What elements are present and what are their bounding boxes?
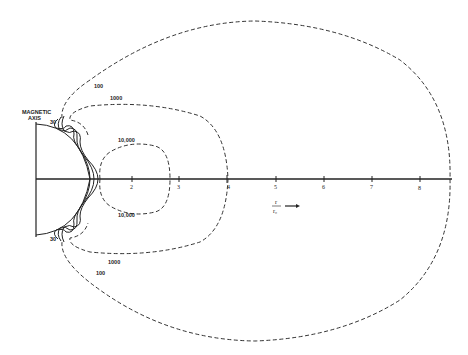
x-axis-label-numerator: r [275,199,277,205]
tick-5: 5 [274,184,277,190]
magnetic-axis-label-line2: AXIS [28,115,41,121]
contour-label-10000-bottom: 10,000 [118,212,135,218]
tick-3: 3 [177,184,180,190]
tick-7: 7 [370,184,373,190]
contour-label-100-bottom: 100 [96,270,105,276]
contour-label-1000-top: 1000 [110,95,122,101]
radiation-belt-contour-diagram: 2 3 4 5 6 7 8 r r₀ MAGNETIC AXIS 30 30 1… [0,0,468,355]
contour-label-100-top: 100 [94,83,103,89]
contour-label-1000-bottom: 1000 [108,259,120,265]
contour-label-30-top: 30 [50,119,56,125]
x-axis-label-denominator: r₀ [273,208,277,214]
contour-label-30-bottom: 30 [50,236,56,242]
contour-100 [62,21,450,341]
contour-label-10000-top: 10,000 [118,137,135,143]
tick-6: 6 [322,184,325,190]
tick-2: 2 [130,184,133,190]
tick-8: 8 [418,185,421,191]
arrow-right-icon [285,204,300,208]
